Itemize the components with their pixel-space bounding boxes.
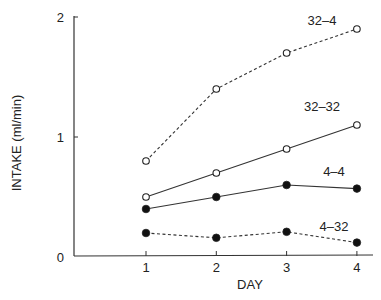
series-line	[146, 29, 357, 161]
series-line	[146, 125, 357, 197]
x-tick-label: 1	[142, 260, 149, 275]
data-point	[143, 158, 150, 165]
x-tick-label: 2	[213, 260, 220, 275]
x-tick-label: 3	[283, 260, 290, 275]
data-point	[354, 26, 361, 33]
y-tick-label: 1	[57, 130, 64, 145]
data-point	[213, 234, 221, 242]
series-label: 32–4	[308, 13, 337, 28]
data-point	[283, 146, 290, 153]
y-tick-label: 0	[57, 250, 64, 265]
data-point	[213, 86, 220, 93]
data-point	[283, 50, 290, 57]
x-tick-label: 4	[353, 260, 360, 275]
data-point	[142, 229, 150, 237]
series-4-4	[142, 181, 361, 213]
data-point	[143, 194, 150, 201]
x-axis-label: DAY	[237, 277, 263, 292]
data-point	[354, 122, 361, 129]
series-label: 32–32	[304, 99, 340, 114]
y-tick-label: 2	[57, 10, 64, 25]
data-point	[213, 193, 221, 201]
data-point	[283, 181, 291, 189]
series-label: 4–4	[323, 164, 345, 179]
series-32-32	[143, 122, 361, 201]
series-line	[146, 185, 357, 209]
data-point	[353, 185, 361, 193]
line-chart: 0121234 32–432–324–44–32 DAY INTAKE (ml/…	[0, 0, 381, 300]
series-group	[142, 26, 361, 247]
data-point	[142, 205, 150, 213]
series-labels: 32–432–324–44–32	[304, 13, 349, 234]
data-point	[213, 170, 220, 177]
series-label: 4–32	[320, 219, 349, 234]
y-axis-label: INTAKE (ml/min)	[9, 95, 24, 192]
data-point	[353, 239, 361, 247]
x-axis-line	[74, 255, 373, 256]
data-point	[283, 228, 291, 236]
series-32-4	[143, 26, 361, 165]
